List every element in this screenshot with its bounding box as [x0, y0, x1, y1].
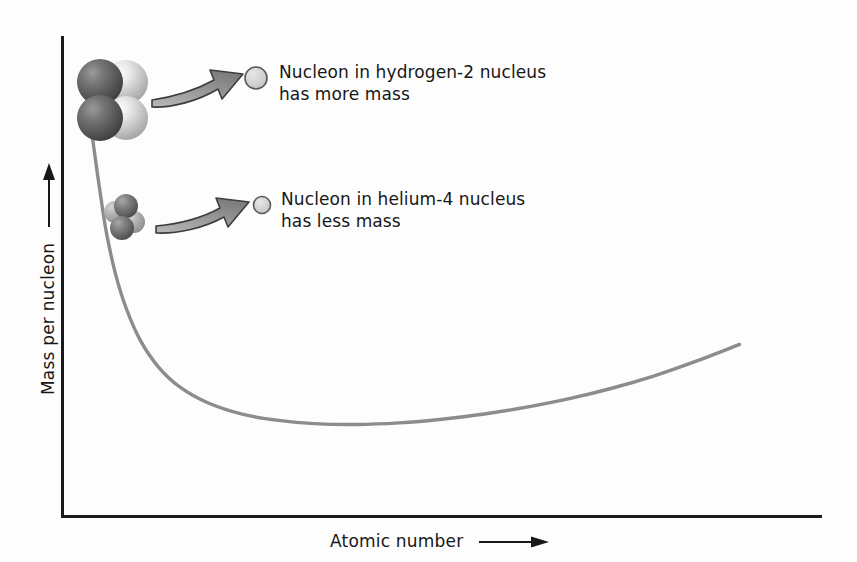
- helium-annotation-label: Nucleon in helium-4 nucleus has less mas…: [281, 188, 525, 232]
- nucleon-sphere-small: [114, 194, 138, 218]
- hydrogen-2-nucleus-cluster: [77, 59, 148, 141]
- hydrogen-annotation-line2: has more mass: [279, 83, 546, 105]
- helium-4-nucleus-cluster: [104, 194, 145, 240]
- hydrogen-callout-arrow: [152, 70, 243, 107]
- helium-callout-arrow: [156, 198, 249, 233]
- x-axis-label-group: Atomic number: [330, 531, 551, 551]
- nucleon-sphere-dark: [77, 95, 123, 141]
- helium-annotation-line2: has less mass: [281, 210, 525, 232]
- hydrogen-annotation-label: Nucleon in hydrogen-2 nucleus has more m…: [279, 61, 546, 105]
- x-axis-label-text: Atomic number: [330, 531, 463, 551]
- mass-per-nucleon-curve: [83, 71, 740, 424]
- single-nucleon-circle-small: [254, 197, 271, 214]
- up-arrow-icon: [42, 161, 56, 227]
- binding-energy-figure: Nucleon in hydrogen-2 nucleus has more m…: [0, 0, 857, 562]
- y-axis-label-text: Mass per nucleon: [38, 243, 58, 395]
- right-arrow-icon: [479, 535, 551, 549]
- hydrogen-annotation-line1: Nucleon in hydrogen-2 nucleus: [279, 61, 546, 83]
- nucleon-sphere-small: [110, 216, 134, 240]
- y-axis-label-group: Mass per nucleon: [38, 205, 58, 395]
- helium-annotation-line1: Nucleon in helium-4 nucleus: [281, 188, 525, 210]
- single-nucleon-circle-large: [245, 67, 267, 89]
- axis-lines: [61, 36, 822, 518]
